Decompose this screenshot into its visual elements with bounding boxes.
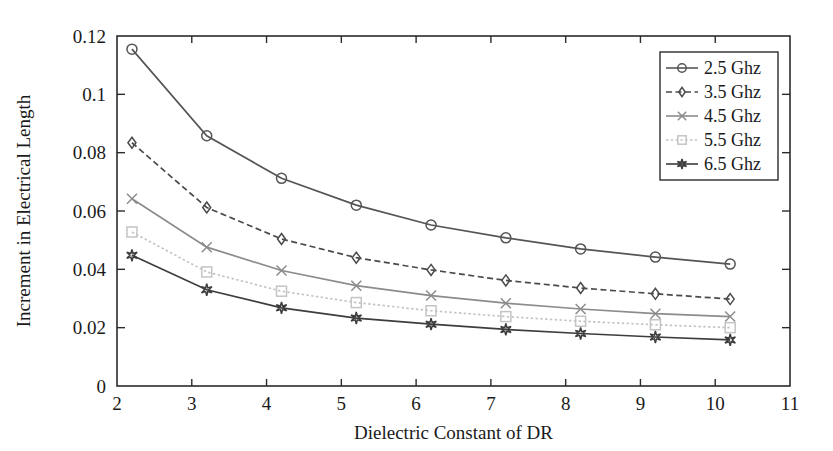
x-tick-label: 7 (486, 393, 496, 414)
series-5-5-ghz (127, 227, 735, 333)
x-tick-label: 10 (706, 393, 725, 414)
x-tick-label: 2 (112, 393, 122, 414)
y-tick-label: 0.08 (73, 142, 106, 163)
x-tick-label: 3 (187, 393, 197, 414)
y-axis-title: Increment in Electrical Length (13, 94, 34, 327)
y-tick-label: 0 (97, 376, 107, 397)
series-4-5-ghz (127, 194, 735, 322)
x-tick-label: 4 (262, 393, 272, 414)
series-2-5-ghz (127, 44, 735, 269)
x-tick-label: 5 (337, 393, 347, 414)
x-tick-label: 8 (561, 393, 571, 414)
y-tick-label: 0.1 (82, 84, 106, 105)
marker-square (202, 267, 212, 277)
legend: 2.5 Ghz3.5 Ghz4.5 Ghz5.5 Ghz6.5 Ghz (660, 52, 778, 180)
series-line (132, 49, 730, 264)
y-tick-label: 0.04 (73, 259, 107, 280)
legend-label: 4.5 Ghz (704, 106, 761, 126)
y-tick-label: 0.02 (73, 317, 106, 338)
figure-container: 23456789101100.020.040.060.080.10.12Diel… (0, 0, 833, 451)
marker-square (127, 227, 137, 237)
legend-label: 6.5 Ghz (704, 154, 761, 174)
marker-square (725, 323, 735, 333)
x-axis-title: Dielectric Constant of DR (354, 422, 553, 443)
legend-label: 5.5 Ghz (704, 130, 761, 150)
legend-label: 2.5 Ghz (704, 58, 761, 78)
y-tick-label: 0.06 (73, 201, 106, 222)
legend-label: 3.5 Ghz (704, 82, 761, 102)
series-line (132, 199, 730, 317)
x-tick-label: 9 (636, 393, 646, 414)
marker-diamond (128, 137, 136, 148)
marker-star (127, 249, 137, 261)
x-tick-label: 6 (411, 393, 421, 414)
series-3-5-ghz (128, 137, 734, 304)
y-tick-label: 0.12 (73, 26, 106, 47)
x-tick-label: 11 (781, 393, 799, 414)
line-chart: 23456789101100.020.040.060.080.10.12Diel… (0, 0, 833, 451)
